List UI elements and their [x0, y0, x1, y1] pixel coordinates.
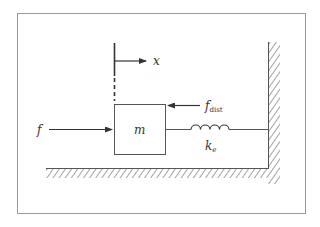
- displacement-label: x: [153, 54, 160, 68]
- svg-text:fdist: fdist: [204, 99, 223, 114]
- spring-label: k: [205, 139, 212, 153]
- ground: [46, 168, 268, 178]
- applied-force: f: [36, 123, 112, 137]
- mass-label: m: [134, 123, 145, 137]
- spring-subscript: e: [212, 146, 216, 154]
- wall: [268, 42, 280, 184]
- spring-coil-icon: [191, 125, 229, 130]
- applied-force-label: f: [36, 123, 44, 137]
- displacement-reference: x: [115, 43, 161, 101]
- mass-block: m: [115, 105, 166, 155]
- disturbance-force: fdist: [168, 99, 223, 114]
- disturbance-force-subscript: dist: [209, 106, 222, 114]
- mass-spring-diagram: x m f fdist ke: [0, 0, 320, 227]
- spring: ke: [166, 125, 268, 154]
- svg-text:ke: ke: [205, 139, 216, 154]
